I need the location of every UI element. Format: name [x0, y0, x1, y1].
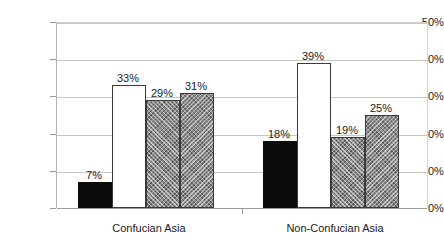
category-divider	[242, 208, 243, 214]
bar-non-confucian-asia-series-1[interactable]	[263, 141, 297, 208]
bar-confucian-asia-series-3[interactable]	[146, 100, 180, 208]
category-label-confucian-asia: Confucian Asia	[56, 222, 242, 234]
data-label-non-confucian-asia-series-1: 18%	[262, 129, 296, 140]
bars-layer	[57, 23, 427, 208]
y-tick-mark-0	[50, 208, 56, 209]
data-label-confucian-asia-series-1: 7%	[77, 170, 111, 181]
plot-area	[56, 22, 428, 208]
category-label-non-confucian-asia: Non-Confucian Asia	[242, 222, 428, 234]
data-label-non-confucian-asia-series-2: 39%	[296, 51, 330, 62]
bar-non-confucian-asia-series-4[interactable]	[365, 115, 399, 208]
data-label-confucian-asia-series-2: 33%	[111, 73, 145, 84]
bar-confucian-asia-series-2[interactable]	[112, 85, 146, 208]
data-label-non-confucian-asia-series-3: 19%	[330, 125, 364, 136]
bar-confucian-asia-series-4[interactable]	[180, 93, 214, 208]
data-label-confucian-asia-series-4: 31%	[179, 81, 213, 92]
bar-non-confucian-asia-series-2[interactable]	[297, 63, 331, 208]
bar-confucian-asia-series-1[interactable]	[78, 182, 112, 208]
data-label-non-confucian-asia-series-4: 25%	[364, 103, 398, 114]
bar-non-confucian-asia-series-3[interactable]	[331, 137, 365, 208]
data-label-confucian-asia-series-3: 29%	[145, 88, 179, 99]
bar-chart: 50% 40% 30% 20% 10% 0%	[0, 0, 444, 252]
